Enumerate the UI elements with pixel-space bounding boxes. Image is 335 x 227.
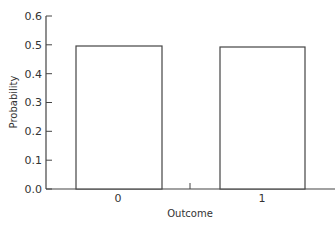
y-tick-label: 0.5 bbox=[25, 39, 43, 52]
x-axis-title: Outcome bbox=[167, 208, 213, 219]
bar-outcome-1 bbox=[220, 47, 305, 189]
y-tick-label: 0.6 bbox=[25, 10, 43, 23]
y-tick-label: 0.1 bbox=[25, 154, 43, 167]
y-tick-labels: 0.0 0.1 0.2 0.3 0.4 0.5 0.6 bbox=[25, 10, 43, 196]
x-tick-label: 1 bbox=[259, 192, 266, 205]
y-tick-label: 0.3 bbox=[25, 96, 43, 109]
y-tick-label: 0.0 bbox=[25, 183, 43, 196]
x-tick-label: 0 bbox=[115, 192, 122, 205]
y-ticks bbox=[46, 16, 52, 189]
bar-outcome-0 bbox=[76, 46, 162, 189]
y-tick-label: 0.2 bbox=[25, 125, 43, 138]
chart: 0.0 0.1 0.2 0.3 0.4 0.5 0.6 Probability … bbox=[0, 0, 335, 227]
y-tick-label: 0.4 bbox=[25, 68, 43, 81]
y-axis-title: Probability bbox=[8, 75, 19, 128]
